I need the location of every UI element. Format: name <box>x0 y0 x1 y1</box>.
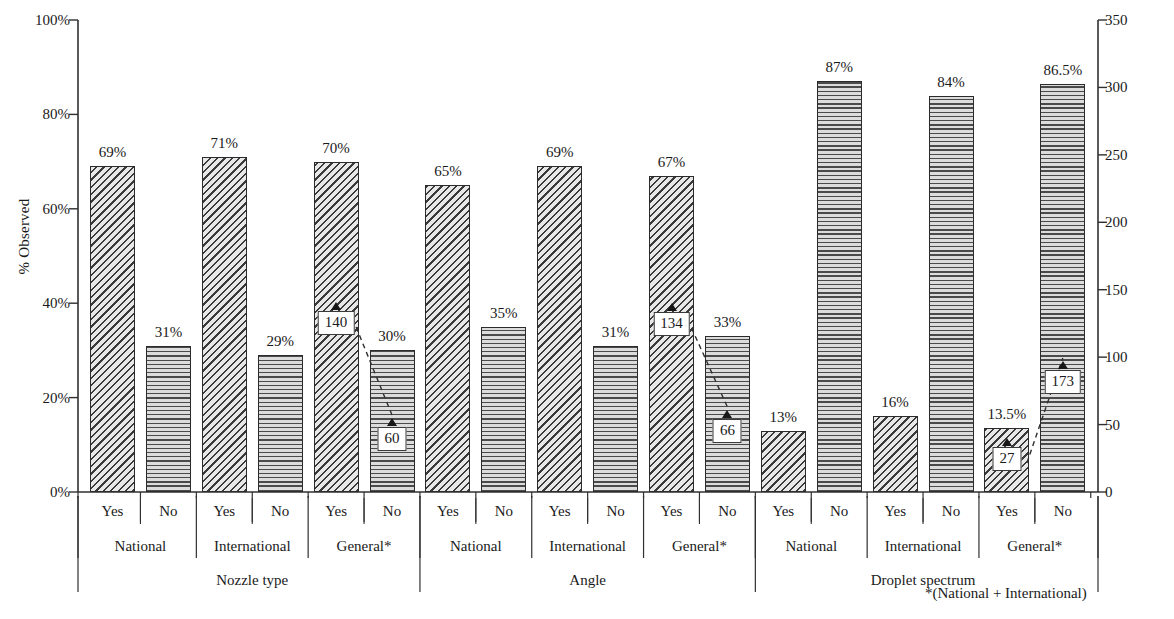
bar-no[interactable] <box>929 96 974 492</box>
bar-yes[interactable] <box>537 166 582 492</box>
bar-yes[interactable] <box>90 166 135 492</box>
y-axis-right-tick-label: 150 <box>1105 281 1165 298</box>
bar-value-label: 30% <box>378 328 406 345</box>
x-axis-group-label: International <box>214 538 291 555</box>
bar-value-label: 84% <box>937 74 965 91</box>
x-axis-category-label: No <box>271 503 289 520</box>
y-axis-left-tick-label: 20% <box>0 389 70 406</box>
x-axis-category-label: Yes <box>549 503 571 520</box>
bar-value-label: 31% <box>602 324 630 341</box>
x-axis-section-label: Angle <box>569 572 606 589</box>
y-axis-left-tick-label: 80% <box>0 106 70 123</box>
bar-value-label: 33% <box>714 314 742 331</box>
x-axis-category-label: Yes <box>102 503 124 520</box>
y-axis-left-tick-label: 40% <box>0 295 70 312</box>
bar-value-label: 29% <box>266 333 294 350</box>
bar-value-label: 35% <box>490 305 518 322</box>
x-axis-group-label: International <box>885 538 962 555</box>
callout-arrow-icon <box>722 410 732 418</box>
x-axis-category-label: Yes <box>884 503 906 520</box>
callout-observation-count: 140 <box>318 311 355 335</box>
bar-no[interactable] <box>1040 84 1085 492</box>
y-axis-right-tick-label: 100 <box>1105 349 1165 366</box>
y-axis-title-left: % Observed <box>16 157 33 317</box>
bar-yes[interactable] <box>873 416 918 492</box>
bar-value-label: 69% <box>546 144 574 161</box>
bar-yes[interactable] <box>425 185 470 492</box>
bar-yes[interactable] <box>202 157 247 492</box>
bar-yes[interactable] <box>761 431 806 492</box>
bar-value-label: 71% <box>211 135 239 152</box>
x-axis-group-label: International <box>549 538 626 555</box>
x-axis-group-label: National <box>785 538 837 555</box>
bar-value-label: 16% <box>881 394 909 411</box>
bar-no[interactable] <box>258 355 303 492</box>
x-axis-group-label: General* <box>672 538 727 555</box>
x-axis-category-label: Yes <box>661 503 683 520</box>
x-axis-category-label: No <box>495 503 513 520</box>
bar-no[interactable] <box>817 81 862 492</box>
x-axis-group-label: National <box>450 538 502 555</box>
footnote: *(National + International) <box>925 585 1087 602</box>
bar-value-label: 67% <box>658 154 686 171</box>
x-axis-group-label: General* <box>1007 538 1062 555</box>
callout-observation-count: 173 <box>1045 370 1082 394</box>
callout-arrow-icon <box>387 418 397 426</box>
y-axis-left-tick-label: 0% <box>0 484 70 501</box>
bar-no[interactable] <box>481 327 526 492</box>
x-axis-category-label: Yes <box>325 503 347 520</box>
chart-canvas: % Observed Number of observations 0%20%4… <box>0 0 1174 619</box>
x-axis-category-label: No <box>942 503 960 520</box>
y-axis-right-tick-label: 350 <box>1105 12 1165 29</box>
x-axis-category-label: No <box>1054 503 1072 520</box>
x-axis-category-label: No <box>718 503 736 520</box>
x-axis-category-label: No <box>383 503 401 520</box>
x-axis-group-label: National <box>115 538 167 555</box>
x-axis-category-label: Yes <box>996 503 1018 520</box>
x-axis-category-label: No <box>830 503 848 520</box>
y-axis-right-tick-label: 300 <box>1105 79 1165 96</box>
callout-observation-count: 134 <box>653 312 690 336</box>
y-axis-right-tick-label: 200 <box>1105 214 1165 231</box>
y-axis-right-tick-label: 0 <box>1105 484 1165 501</box>
y-axis-right-tick-label: 250 <box>1105 146 1165 163</box>
callout-observation-count: 60 <box>378 427 407 451</box>
x-axis-category-label: Yes <box>437 503 459 520</box>
callout-arrow-icon <box>1058 361 1068 369</box>
bar-value-label: 87% <box>825 59 853 76</box>
callout-observation-count: 27 <box>992 447 1021 471</box>
y-axis-right-tick-label: 50 <box>1105 416 1165 433</box>
callout-arrow-icon <box>1002 438 1012 446</box>
x-axis-category-label: No <box>159 503 177 520</box>
bar-no[interactable] <box>146 346 191 492</box>
x-axis-category-label: Yes <box>213 503 235 520</box>
bar-value-label: 69% <box>99 144 127 161</box>
x-axis-section-label: Nozzle type <box>216 572 288 589</box>
x-axis-category-label: Yes <box>772 503 794 520</box>
x-axis-category-label: No <box>606 503 624 520</box>
y-axis-left-tick-label: 60% <box>0 200 70 217</box>
bar-value-label: 86.5% <box>1043 62 1082 79</box>
y-axis-left-tick-label: 100% <box>0 12 70 29</box>
axis-lines <box>0 0 1174 619</box>
callout-arrow-icon <box>331 302 341 310</box>
bar-no[interactable] <box>593 346 638 492</box>
callout-arrow-icon <box>667 303 677 311</box>
x-axis-group-label: General* <box>337 538 392 555</box>
bar-value-label: 70% <box>322 140 350 157</box>
bar-value-label: 13.5% <box>988 406 1027 423</box>
bar-value-label: 13% <box>770 409 798 426</box>
bar-value-label: 31% <box>155 324 183 341</box>
callout-observation-count: 66 <box>713 419 742 443</box>
bar-value-label: 65% <box>434 163 462 180</box>
